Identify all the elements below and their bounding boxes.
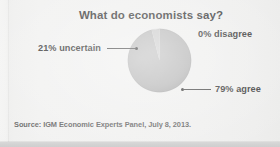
pie-label-agree: 79% agree xyxy=(215,84,261,94)
pie-label-uncertain: 21% uncertain xyxy=(38,43,101,53)
pie-chart-figure: What do economists say? 21% uncertain 0%… xyxy=(0,0,280,147)
leader-line-agree xyxy=(184,89,211,90)
pie-label-disagree: 0% disagree xyxy=(198,29,252,39)
pie-chart xyxy=(127,28,192,93)
pie-chart-svg xyxy=(127,28,192,93)
page-margin-edge xyxy=(8,0,9,147)
leader-line-uncertain xyxy=(107,48,135,49)
leader-dot-uncertain xyxy=(135,47,138,50)
leader-dot-agree xyxy=(181,88,184,91)
page-title: What do economists say? xyxy=(0,9,280,22)
bottom-edge-strip xyxy=(0,142,280,147)
source-note: Source: IGM Economic Experts Panel, July… xyxy=(14,120,191,129)
